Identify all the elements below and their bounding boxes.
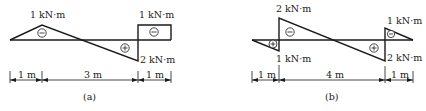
dimension-label: 3 m xyxy=(84,69,102,80)
bending-moment-diagrams: 1 kN·m 1 kN·m 2 kN·m 1 m 3 m 1 xyxy=(0,0,426,111)
label-right-top: 1 kN·m xyxy=(139,9,174,20)
label-right-bottom: 2 kN·m xyxy=(140,54,175,65)
plus-circle-icon xyxy=(121,44,129,52)
dimension-label: 1 m xyxy=(18,69,36,80)
dimension-label: 4 m xyxy=(326,69,344,80)
dimension-label: 1 m xyxy=(146,69,164,80)
minus-circle-icon xyxy=(286,28,294,36)
dimension-label: 1 m xyxy=(391,69,409,80)
label-left-top: 2 kN·m xyxy=(276,3,311,14)
minus-circle-icon xyxy=(150,28,158,36)
label-left-bottom: 1 kN·m xyxy=(276,53,311,64)
diagram-a: 1 kN·m 1 kN·m 2 kN·m 1 m 3 m 1 xyxy=(10,9,175,102)
minus-circle-icon xyxy=(387,30,394,37)
plus-circle-icon xyxy=(269,40,277,48)
plus-circle-icon xyxy=(370,44,378,52)
label-right-bottom: 2 kN·m xyxy=(387,52,422,63)
diagram-b: 2 kN·m 1 kN·m 1 kN·m 2 kN·m xyxy=(252,3,422,102)
caption-b: (b) xyxy=(325,91,339,102)
label-left-peak: 1 kN·m xyxy=(30,9,65,20)
minus-circle-icon xyxy=(38,29,46,37)
dimension-label: 1 m xyxy=(258,69,276,80)
label-right-top: 1 kN·m xyxy=(387,15,422,26)
caption-a: (a) xyxy=(83,91,96,102)
